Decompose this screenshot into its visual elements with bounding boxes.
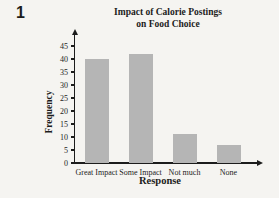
y-tick-label: 30 — [52, 81, 68, 90]
y-tick — [71, 110, 76, 111]
bar — [217, 145, 241, 163]
textbook-page: 1 Impact of Calorie Postings on Food Cho… — [0, 0, 279, 198]
y-tick-label: 35 — [52, 68, 68, 77]
x-axis-arrow-icon — [257, 160, 263, 166]
y-tick — [71, 136, 76, 137]
y-tick — [71, 123, 76, 124]
y-tick-label: 40 — [52, 55, 68, 64]
y-tick — [71, 84, 76, 85]
y-tick — [71, 162, 76, 163]
y-axis-arrow-icon — [72, 29, 78, 35]
y-tick — [71, 149, 76, 150]
y-tick-label: 25 — [52, 94, 68, 103]
y-tick-label: 15 — [52, 120, 68, 129]
x-axis-label: Response — [75, 175, 245, 186]
y-tick-label: 0 — [52, 159, 68, 168]
bar — [173, 134, 197, 163]
y-tick-label: 5 — [52, 146, 68, 155]
y-tick-label: 20 — [52, 107, 68, 116]
y-tick — [71, 58, 76, 59]
y-tick-label: 45 — [52, 42, 68, 51]
bar — [85, 59, 109, 163]
plot-area: 051015202530354045Great ImpactSome Impac… — [0, 0, 279, 198]
y-tick-label: 10 — [52, 133, 68, 142]
y-tick — [71, 71, 76, 72]
y-tick — [71, 97, 76, 98]
bar — [129, 54, 153, 163]
y-tick — [71, 45, 76, 46]
